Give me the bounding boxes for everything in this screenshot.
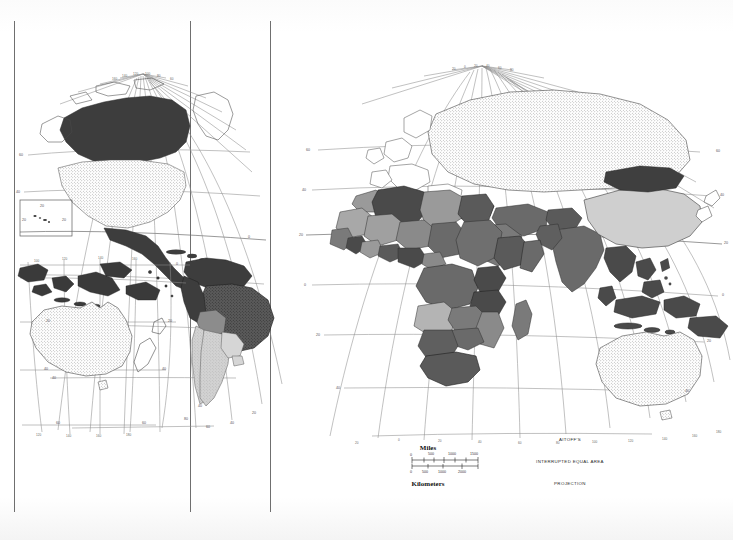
region-canada — [60, 96, 190, 164]
svg-text:40: 40 — [52, 376, 56, 380]
svg-text:20: 20 — [724, 241, 728, 245]
region-zaire — [416, 264, 478, 310]
region-southeast-asia — [598, 246, 728, 338]
svg-text:120: 120 — [62, 257, 67, 261]
svg-text:40: 40 — [16, 190, 20, 194]
svg-text:0: 0 — [176, 262, 178, 266]
svg-text:1500: 1500 — [470, 452, 478, 456]
svg-text:60: 60 — [19, 153, 23, 157]
svg-text:140: 140 — [122, 74, 127, 78]
svg-text:180: 180 — [716, 430, 721, 434]
svg-text:60: 60 — [206, 425, 210, 429]
svg-text:40: 40 — [685, 389, 689, 393]
svg-text:180: 180 — [126, 433, 131, 437]
eastern-hemisphere: 60 60 40 40 20 20 0 0 20 20 40 40 20 0 2… — [299, 64, 730, 445]
projection-line-2: INTERRUPTED EQUAL AREA — [536, 459, 604, 464]
svg-text:1000: 1000 — [448, 452, 456, 456]
region-australia — [30, 302, 132, 376]
svg-text:0: 0 — [410, 453, 412, 457]
scale-kilometers-axis: 0 500 1000 2000 — [410, 464, 478, 475]
svg-text:40: 40 — [162, 367, 166, 371]
svg-text:1000: 1000 — [438, 470, 446, 474]
svg-text:40: 40 — [478, 440, 482, 444]
svg-text:60: 60 — [306, 148, 310, 152]
svg-text:500: 500 — [422, 470, 428, 474]
region-tasmania — [98, 380, 108, 390]
svg-text:140: 140 — [662, 437, 667, 441]
svg-text:0: 0 — [304, 283, 306, 287]
projection-line-3: PROJECTION — [554, 481, 586, 486]
svg-text:60: 60 — [56, 421, 60, 425]
svg-text:20: 20 — [438, 439, 442, 443]
svg-text:20: 20 — [22, 218, 26, 222]
western-hemisphere: 80 60 40 20 60 40 0 20 40 40 160 140 120… — [16, 72, 282, 434]
inset-box: 20 20 20 — [20, 200, 72, 236]
svg-text:100: 100 — [145, 72, 150, 76]
svg-text:20: 20 — [316, 333, 320, 337]
region-china — [584, 188, 702, 248]
svg-text:60: 60 — [498, 66, 502, 70]
svg-text:0: 0 — [248, 235, 250, 239]
svg-text:80: 80 — [157, 74, 161, 78]
svg-text:20: 20 — [452, 67, 456, 71]
svg-text:20: 20 — [299, 233, 303, 237]
svg-text:160: 160 — [112, 77, 117, 81]
svg-text:80: 80 — [510, 68, 514, 72]
svg-text:20: 20 — [62, 218, 66, 222]
svg-text:160: 160 — [96, 434, 101, 438]
scale-miles-label: Miles — [420, 444, 437, 452]
svg-text:0: 0 — [410, 470, 412, 474]
svg-text:120: 120 — [36, 433, 41, 437]
region-tasmania-east — [660, 410, 672, 420]
svg-text:100: 100 — [592, 440, 597, 444]
svg-text:160: 160 — [132, 257, 137, 261]
svg-text:500: 500 — [428, 452, 434, 456]
svg-text:40: 40 — [336, 386, 340, 390]
svg-text:40: 40 — [230, 421, 234, 425]
svg-text:120: 120 — [628, 439, 633, 443]
region-australia-east — [596, 332, 702, 406]
svg-text:0: 0 — [722, 293, 724, 297]
region-uruguay — [232, 356, 244, 366]
scale-miles-axis: 0 500 1000 1500 — [410, 452, 478, 463]
svg-text:60: 60 — [518, 441, 522, 445]
svg-text:100: 100 — [34, 259, 39, 263]
svg-text:140: 140 — [98, 256, 103, 260]
svg-text:40: 40 — [198, 404, 202, 408]
region-kenya — [474, 266, 506, 292]
svg-text:40: 40 — [720, 193, 724, 197]
lon-labels-east-bottom: 20 0 20 40 60 80 100 120 140 160 180 — [355, 430, 721, 445]
svg-text:20: 20 — [46, 319, 50, 323]
region-madagascar — [512, 300, 532, 340]
scale-kilometers-label: Kilometers — [411, 480, 444, 488]
svg-text:120: 120 — [133, 72, 138, 76]
svg-text:60: 60 — [170, 77, 174, 81]
svg-text:20: 20 — [168, 319, 172, 323]
svg-text:0: 0 — [398, 438, 400, 442]
svg-text:20: 20 — [252, 411, 256, 415]
svg-text:20: 20 — [474, 64, 478, 68]
svg-text:0: 0 — [464, 65, 466, 69]
scale-bar: Miles 0 500 1000 1500 0 500 1000 — [410, 444, 478, 488]
projection-line-1: AITOFF'S — [559, 437, 581, 442]
lon-labels-oceania-top: 100 120 140 160 — [34, 256, 137, 263]
svg-text:80: 80 — [184, 417, 188, 421]
svg-text:20: 20 — [40, 204, 44, 208]
region-philippines — [660, 258, 671, 285]
oceania-panel: 20 20 20 — [18, 200, 190, 438]
svg-text:60: 60 — [716, 149, 720, 153]
svg-text:40: 40 — [44, 367, 48, 371]
region-indonesia-png — [18, 262, 173, 308]
svg-text:20: 20 — [707, 339, 711, 343]
svg-text:60: 60 — [142, 421, 146, 425]
svg-text:160: 160 — [692, 434, 697, 438]
region-united-states — [58, 160, 186, 228]
region-somalia — [520, 240, 544, 272]
world-map-svg: 80 60 40 20 60 40 0 20 40 40 160 140 120… — [0, 0, 733, 540]
svg-text:40: 40 — [486, 64, 490, 68]
lon-labels-oceania: 120 140 160 180 — [36, 433, 131, 438]
svg-text:2000: 2000 — [458, 470, 466, 474]
svg-text:140: 140 — [66, 434, 71, 438]
svg-text:40: 40 — [302, 188, 306, 192]
svg-text:20: 20 — [355, 441, 359, 445]
